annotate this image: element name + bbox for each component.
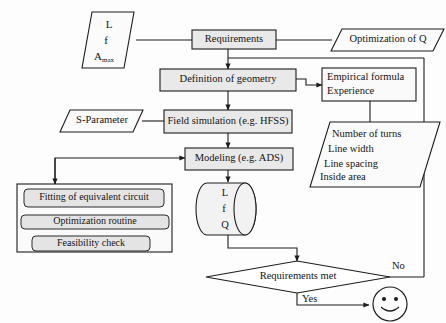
empirical-line-2: Experience	[327, 85, 375, 96]
input-line-1: L	[106, 18, 113, 30]
input-line-3: A	[94, 50, 102, 62]
smiley-eye-left-icon	[382, 297, 386, 301]
results-line-3: Q	[221, 219, 229, 230]
empirical-line-1: Empirical formula	[327, 71, 405, 82]
params-line-4: Inside area	[320, 171, 366, 182]
results-line-2: f	[222, 203, 226, 214]
edge-extraction-to-modeling	[55, 158, 185, 185]
results-line-1: L	[222, 187, 228, 198]
optimization-label: Optimization of Q	[350, 33, 427, 44]
field-simulation-label: Field simulation (e.g. HFSS)	[167, 115, 289, 127]
fitting-label: Fitting of equivalent circuit	[39, 191, 149, 202]
optimization-routine-label: Optimization routine	[53, 215, 137, 226]
results-store-cap	[234, 183, 256, 235]
modeling-label: Modeling (e.g. ADS)	[195, 152, 284, 164]
input-line-2: f	[104, 34, 108, 46]
smiley-face-icon	[373, 287, 407, 321]
flowchart-canvas: L f A max Requirements Optimization of Q…	[0, 0, 446, 323]
definition-label: Definition of geometry	[180, 73, 278, 84]
params-line-2: Line width	[328, 143, 375, 154]
edge-definition-to-empirical	[296, 79, 322, 85]
edge-label-no: No	[392, 260, 405, 271]
s-parameter-label: S-Parameter	[76, 114, 128, 125]
params-line-1: Number of turns	[332, 128, 401, 139]
requirements-label: Requirements	[205, 33, 263, 44]
edge-results-to-decision	[228, 235, 297, 261]
edge-label-yes: Yes	[302, 293, 317, 304]
feasibility-label: Feasibility check	[57, 237, 125, 248]
smiley-eye-right-icon	[394, 297, 398, 301]
decision-label: Requirements met	[260, 270, 337, 281]
params-line-3: Line spacing	[324, 158, 379, 169]
input-line-3-subscript: max	[102, 56, 115, 64]
flowchart-svg: L f A max Requirements Optimization of Q…	[0, 0, 446, 323]
